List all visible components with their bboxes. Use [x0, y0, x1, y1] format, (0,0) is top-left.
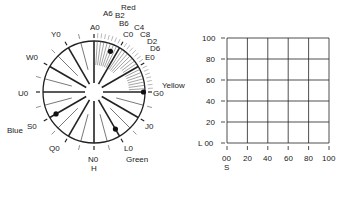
x-tick-20: 20: [243, 154, 252, 163]
y-tick-20: 20: [206, 118, 215, 127]
sample-dot: [108, 49, 113, 54]
fine-tick: [137, 56, 141, 59]
fine-tick: [101, 34, 102, 39]
label-a6: A6: [103, 9, 113, 18]
secondary-tick: [78, 145, 79, 150]
y-tick-60: 60: [206, 76, 215, 85]
sample-dot: [53, 111, 58, 116]
label-q0: Q0: [49, 144, 60, 153]
x-tick-100: 100: [322, 154, 336, 163]
grid-labels: 100 80 60 40 20 L 00 00 20 40 60 80 100 …: [198, 34, 336, 172]
secondary-tick: [108, 145, 109, 150]
principal-tick: [65, 42, 67, 45]
label-u0: U0: [18, 89, 29, 98]
x-axis-label-s: S: [224, 163, 229, 172]
secondary-tick: [36, 76, 41, 77]
secondary-spoke: [81, 43, 88, 70]
fine-tick: [145, 73, 150, 75]
x-tick-80: 80: [304, 154, 313, 163]
fine-tick: [108, 35, 109, 40]
hue-wheel: [36, 33, 153, 150]
secondary-spoke: [81, 114, 88, 141]
secondary-spoke: [45, 79, 72, 86]
fine-tick: [127, 45, 130, 49]
fine-tick: [115, 37, 117, 42]
fine-tick: [132, 50, 136, 54]
label-e0: E0: [145, 53, 155, 62]
label-s0: S0: [27, 122, 37, 131]
secondary-spoke: [45, 98, 72, 105]
principal-tick: [65, 139, 67, 142]
label-w0: W0: [26, 53, 39, 62]
label-h-axis: H: [91, 164, 97, 173]
secondary-tick: [52, 50, 56, 54]
hue-labels: Red A6 B2 B6 C4 C8 D2 D6 A0 C0 E0 Yellow…: [7, 3, 185, 173]
sample-dot: [113, 127, 118, 132]
secondary-spoke: [100, 114, 107, 141]
fine-tick: [130, 48, 133, 52]
y-tick-80: 80: [206, 55, 215, 64]
label-l0: L0: [124, 144, 133, 153]
label-yellow: Yellow: [162, 81, 185, 90]
x-tick-60: 60: [284, 154, 293, 163]
y-tick-40: 40: [206, 97, 215, 106]
fine-tick: [135, 53, 139, 56]
fine-tick: [111, 36, 113, 41]
saturation-lightness-grid: [221, 38, 329, 150]
principal-tick: [44, 63, 47, 65]
label-blue: Blue: [7, 126, 24, 135]
label-b6: B6: [119, 19, 129, 28]
label-c0: C0: [123, 30, 134, 39]
label-g0: G0: [153, 89, 164, 98]
x-tick-40: 40: [263, 154, 272, 163]
secondary-tick: [36, 106, 41, 107]
label-a0: A0: [90, 23, 100, 32]
principal-tick: [141, 119, 144, 121]
fine-spoke: [126, 72, 141, 78]
secondary-tick: [78, 34, 79, 39]
secondary-spoke: [116, 98, 143, 105]
fine-tick: [148, 84, 153, 85]
x-tick-00: 00: [222, 154, 231, 163]
fine-tick: [105, 34, 106, 39]
y-tick-l00: L 00: [198, 139, 214, 148]
fine-tick: [142, 66, 146, 68]
fine-spoke: [129, 89, 145, 90]
secondary-tick: [133, 131, 137, 135]
label-green: Green: [126, 155, 148, 164]
principal-tick: [141, 63, 144, 65]
fine-spoke: [128, 82, 144, 85]
secondary-tick: [52, 131, 56, 135]
fine-tick: [146, 77, 151, 78]
fine-tick: [139, 59, 143, 62]
principal-tick: [121, 42, 123, 45]
y-tick-100: 100: [202, 34, 216, 43]
fine-tick: [124, 43, 127, 47]
fine-tick: [147, 80, 152, 81]
sample-dot: [141, 89, 146, 94]
label-j0: J0: [145, 122, 154, 131]
label-d6: D6: [150, 44, 161, 53]
principal-tick: [44, 119, 47, 121]
fine-spoke: [129, 85, 145, 87]
label-n0: N0: [88, 155, 99, 164]
fine-spoke: [96, 41, 98, 65]
diagram-canvas: Red A6 B2 B6 C4 C8 D2 D6 A0 C0 E0 Yellow…: [0, 0, 346, 211]
fine-tick: [118, 39, 120, 43]
label-y0: Y0: [51, 30, 61, 39]
principal-tick: [121, 139, 123, 142]
fine-tick: [144, 69, 149, 71]
secondary-tick: [147, 106, 152, 107]
fine-spoke: [113, 56, 130, 73]
